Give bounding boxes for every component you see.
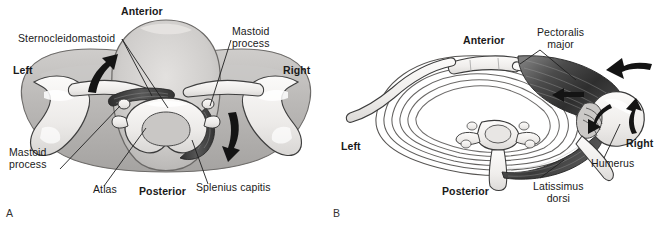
panel-a: Anterior Left Right Posterior Sternoclei… (0, 0, 332, 233)
panel-a-letter: A (6, 207, 13, 219)
panel-b: Anterior Left Right Posterior Pectoralis… (332, 0, 664, 233)
panel-a-posterior-label: Posterior (139, 186, 186, 198)
label-pectoralis-major: Pectoralis major (537, 27, 584, 50)
panel-a-right-label: Right (283, 65, 310, 77)
label-sternocleidomastoid: Sternocleidomastoid (18, 33, 115, 45)
thoracic-vertebra (456, 120, 540, 190)
panel-a-left-label: Left (13, 65, 33, 77)
panel-b-right-label: Right (626, 138, 653, 150)
label-splenius-capitis: Splenius capitis (196, 182, 271, 194)
trunk-rotation-arrow (606, 58, 652, 79)
panel-b-left-label: Left (341, 141, 361, 153)
panel-b-posterior-label: Posterior (442, 186, 489, 198)
panel-b-letter: B (333, 207, 340, 219)
anatomy-figure: Anterior Left Right Posterior Sternoclei… (0, 0, 664, 233)
label-mastoid-process-left: Mastoid process (9, 147, 47, 170)
label-latissimus-dorsi: Latissimus dorsi (533, 181, 584, 204)
panel-a-anterior-label: Anterior (121, 6, 163, 18)
panel-b-anterior-label: Anterior (463, 35, 505, 47)
mastoid-process-left-bone (118, 99, 130, 109)
label-humerus: Humerus (591, 158, 634, 170)
label-atlas: Atlas (93, 184, 117, 196)
sternum (448, 56, 520, 74)
label-mastoid-process-right: Mastoid process (232, 26, 270, 49)
